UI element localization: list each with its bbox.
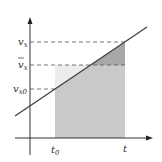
vx-label: vx xyxy=(18,36,28,49)
y-axis-arrow-icon xyxy=(28,17,33,24)
t0-label: t0 xyxy=(51,144,60,157)
velocity-time-diagram: vx vx vx0 t0 t xyxy=(0,0,162,162)
t-label: t xyxy=(123,143,128,154)
vx0-label: vx0 xyxy=(13,83,28,96)
vbar-label: vx xyxy=(18,59,28,72)
x-axis-arrow-icon xyxy=(146,136,153,141)
